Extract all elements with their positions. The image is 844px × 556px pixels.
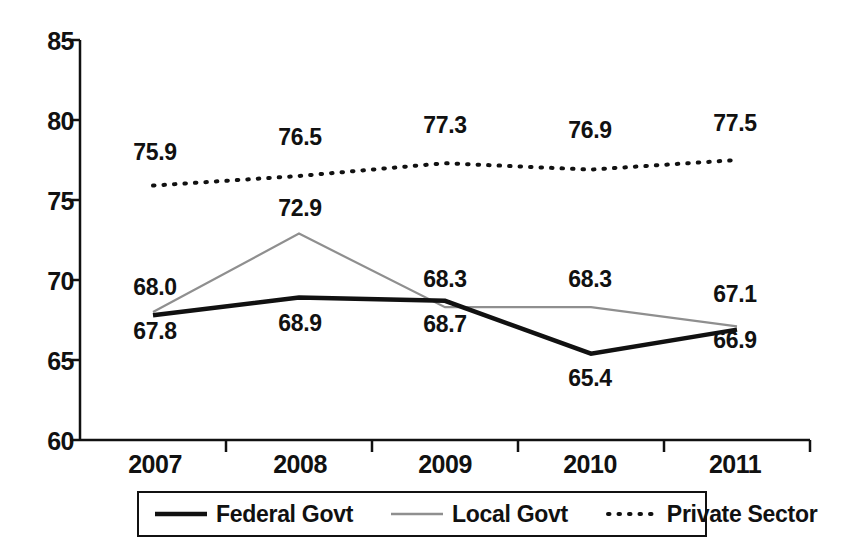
data-label-private-2007: 75.9 [110,139,200,166]
data-label-private-2011: 77.5 [690,110,780,137]
legend-label-private-sector: Private Sector [667,501,818,528]
data-label-federal-2010: 65.4 [545,365,635,392]
legend-label-federal-govt: Federal Govt [216,501,353,528]
legend-item-local-govt[interactable]: Local Govt [375,501,568,528]
data-label-private-2009: 77.3 [400,112,490,139]
x-axis-ticks [226,440,810,452]
y-axis-ticks [70,40,80,440]
legend-item-federal-govt[interactable]: Federal Govt [139,501,353,528]
thin-gray-line-swatch-icon [391,507,443,521]
dotted-line-swatch-icon [606,507,658,521]
series-line-private-sector [153,160,737,186]
data-label-private-2010: 76.9 [545,117,635,144]
data-label-local-2007: 68.0 [110,274,200,301]
data-label-federal-2007: 67.8 [110,318,200,345]
data-label-federal-2009: 68.7 [400,311,490,338]
data-label-federal-2008: 68.9 [255,310,345,337]
data-label-local-2008: 72.9 [255,195,345,222]
data-label-local-2010: 68.3 [545,266,635,293]
legend-item-private-sector[interactable]: Private Sector [590,501,818,528]
data-label-private-2008: 76.5 [255,124,345,151]
data-label-local-2009: 68.3 [400,266,490,293]
data-label-local-2011: 67.1 [690,281,780,308]
legend-label-local-govt: Local Govt [452,501,568,528]
legend: Federal Govt Local Govt Private Sector [137,491,707,537]
line-chart: 85 80 75 70 65 60 2007 2008 2009 2010 20… [0,0,844,556]
data-label-federal-2011: 66.9 [690,327,780,354]
solid-line-swatch-icon [155,507,207,521]
